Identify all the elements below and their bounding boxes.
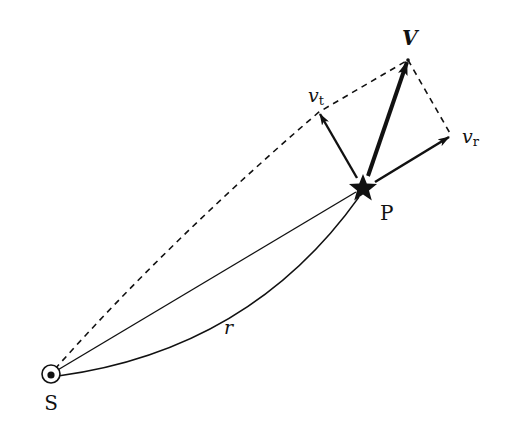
- sun-symbol-icon: [42, 365, 60, 383]
- label-tangential-velocity: vt: [308, 84, 325, 108]
- vector-radial-velocity: [375, 137, 449, 182]
- label-sun: S: [44, 391, 58, 415]
- label-star: P: [380, 201, 393, 225]
- arc-distance-r: [58, 197, 359, 376]
- label-radial-v: v: [462, 125, 473, 147]
- vector-tangential-velocity: [320, 114, 357, 178]
- label-tangential-sub: t: [319, 93, 325, 108]
- dashed-line-v-to-vr: [408, 60, 451, 135]
- label-tangential-v: v: [308, 84, 319, 106]
- label-total-velocity: V: [402, 26, 420, 50]
- label-radial-sub: r: [473, 134, 480, 149]
- star-icon: [349, 174, 377, 201]
- label-radial-velocity: vr: [462, 125, 480, 149]
- line-s-to-p: [56, 192, 356, 371]
- velocity-diagram: S P V vt vr r: [0, 0, 510, 425]
- label-distance: r: [224, 316, 235, 338]
- v-tip-point: [406, 58, 410, 62]
